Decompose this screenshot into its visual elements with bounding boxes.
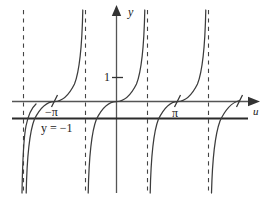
x-tick-label-pi: π	[172, 107, 178, 119]
tangent-function-figure: y u 1 −π π y = −1	[0, 0, 271, 206]
y-axis-arrowhead	[112, 5, 121, 16]
y-tick-label-one: 1	[104, 71, 110, 83]
tangent-branch-4	[212, 101, 240, 194]
x-tick-label-neg-pi: −π	[45, 106, 58, 118]
u-axis-label: u	[253, 106, 259, 117]
horizontal-line-label: y = −1	[41, 122, 73, 134]
y-axis-label: y	[128, 6, 133, 18]
plot-canvas	[0, 0, 271, 206]
y-axis-group	[112, 5, 121, 193]
